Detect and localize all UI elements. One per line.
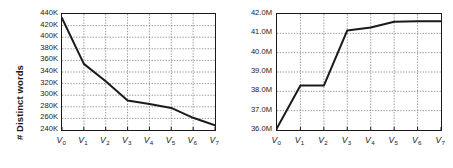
y-tick-label: 37.0M <box>251 106 272 114</box>
x-tick-label: V7 <box>435 135 444 145</box>
x-tick-label: V1 <box>295 135 304 145</box>
x-axis-ticks-left: V0V1V2V3V4V5V6V7 <box>61 135 216 155</box>
x-tick-label: V2 <box>100 135 109 145</box>
plot-area-words <box>276 13 442 131</box>
y-axis-label-left: # Distinct words <box>14 65 25 140</box>
y-tick-label: 420K <box>40 21 58 29</box>
line-chart-distinct-words <box>62 14 216 131</box>
x-tick-label: V7 <box>209 135 218 145</box>
y-tick-label: 320K <box>40 79 58 87</box>
data-series-line <box>277 21 441 128</box>
line-chart-words <box>277 14 442 131</box>
y-tick-label: 42.0M <box>251 9 272 17</box>
x-tick-label: V6 <box>412 135 421 145</box>
y-tick-label: 380K <box>40 44 58 52</box>
y-tick-label: 38.0M <box>251 87 272 95</box>
y-tick-label: 39.0M <box>251 67 272 75</box>
x-axis-ticks-right: V0V1V2V3V4V5V6V7 <box>276 135 442 155</box>
x-tick-label: V5 <box>166 135 175 145</box>
plot-area-distinct-words <box>61 13 216 131</box>
x-tick-label: V3 <box>342 135 351 145</box>
y-tick-label: 340K <box>40 67 58 75</box>
x-tick-label: V4 <box>365 135 374 145</box>
y-tick-label: 300K <box>40 90 58 98</box>
y-tick-label: 440K <box>40 9 58 17</box>
x-tick-label: V3 <box>122 135 131 145</box>
y-tick-label: 260K <box>40 114 58 122</box>
y-tick-label: 400K <box>40 32 58 40</box>
y-tick-label: 280K <box>40 102 58 110</box>
x-tick-label: V1 <box>78 135 87 145</box>
y-tick-label: 36.0M <box>251 125 272 133</box>
chart-panel-words: # Words 36.0M37.0M38.0M39.0M40.0M41.0M42… <box>226 0 453 168</box>
x-tick-label: V4 <box>144 135 153 145</box>
figure-container: # Distinct words 240K260K280K300K320K340… <box>0 0 453 168</box>
chart-panel-distinct-words: # Distinct words 240K260K280K300K320K340… <box>0 0 226 168</box>
y-axis-ticks-left: 240K260K280K300K320K340K360K380K400K420K… <box>32 0 58 168</box>
y-tick-label: 40.0M <box>251 48 272 56</box>
x-tick-label: V6 <box>188 135 197 145</box>
x-tick-label: V0 <box>56 135 65 145</box>
x-tick-label: V5 <box>389 135 398 145</box>
x-tick-label: V2 <box>318 135 327 145</box>
y-tick-label: 240K <box>40 125 58 133</box>
y-axis-ticks-right: 36.0M37.0M38.0M39.0M40.0M41.0M42.0M <box>238 0 272 168</box>
x-tick-label: V0 <box>271 135 280 145</box>
y-tick-label: 360K <box>40 56 58 64</box>
y-tick-label: 41.0M <box>251 29 272 37</box>
